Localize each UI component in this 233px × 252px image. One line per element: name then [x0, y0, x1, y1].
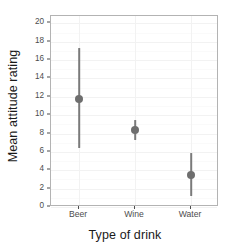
- gridline-horizontal-minor: [51, 106, 217, 107]
- data-point-beer: [75, 95, 83, 103]
- gridline-horizontal-minor: [51, 143, 217, 144]
- x-axis-tick-label-wine: Wine: [124, 210, 144, 219]
- x-axis-tick-label-water: Water: [179, 210, 202, 219]
- gridline-horizontal: [51, 23, 217, 24]
- y-axis-tick-label: 20: [22, 18, 44, 26]
- x-axis-tick-label-beer: Beer: [69, 210, 87, 219]
- data-point-water: [187, 171, 195, 179]
- gridline-horizontal: [51, 60, 217, 61]
- y-axis-tick-label: 16: [22, 55, 44, 63]
- gridline-horizontal-minor: [51, 198, 217, 199]
- plot-panel: [50, 15, 218, 206]
- y-axis-tick-label: 8: [22, 128, 44, 136]
- gridline-horizontal: [51, 78, 217, 79]
- gridline-horizontal: [51, 189, 217, 190]
- y-axis-tick-label: 4: [22, 165, 44, 173]
- y-axis-tick-label: 14: [22, 73, 44, 81]
- y-axis-tick-label: 6: [22, 147, 44, 155]
- gridline-horizontal: [51, 42, 217, 43]
- y-axis-title-text: Mean attitude rating: [6, 50, 20, 163]
- x-axis-tick-labels: BeerWineWater: [0, 210, 233, 224]
- gridline-horizontal-minor: [51, 51, 217, 52]
- data-point-wine: [131, 126, 139, 134]
- gridline-horizontal-minor: [51, 69, 217, 70]
- x-axis-title: Type of drink: [26, 228, 224, 242]
- y-axis-tick-label: 10: [22, 110, 44, 118]
- y-axis-tick-label: 18: [22, 37, 44, 45]
- y-axis-tick-label: 2: [22, 184, 44, 192]
- gridline-horizontal-minor: [51, 88, 217, 89]
- gridline-horizontal-minor: [51, 33, 217, 34]
- y-axis-tick-label: 12: [22, 92, 44, 100]
- gridline-vertical: [135, 16, 136, 205]
- gridline-horizontal: [51, 152, 217, 153]
- chart-figure: Mean attitude rating 02468101214161820 B…: [0, 0, 233, 252]
- gridline-horizontal: [51, 115, 217, 116]
- gridline-horizontal-minor: [51, 161, 217, 162]
- gridline-horizontal-minor: [51, 179, 217, 180]
